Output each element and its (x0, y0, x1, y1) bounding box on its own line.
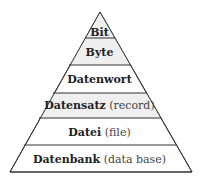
level-datei: Datei (file) (0, 127, 199, 139)
level-byte: Byte (0, 47, 199, 59)
level-datenbank: Datenbank (data base) (0, 154, 199, 166)
level-bit: Bit (0, 27, 199, 39)
level-datenwort: Datenwort (0, 74, 199, 86)
level-datensatz: Datensatz (record) (0, 100, 199, 112)
